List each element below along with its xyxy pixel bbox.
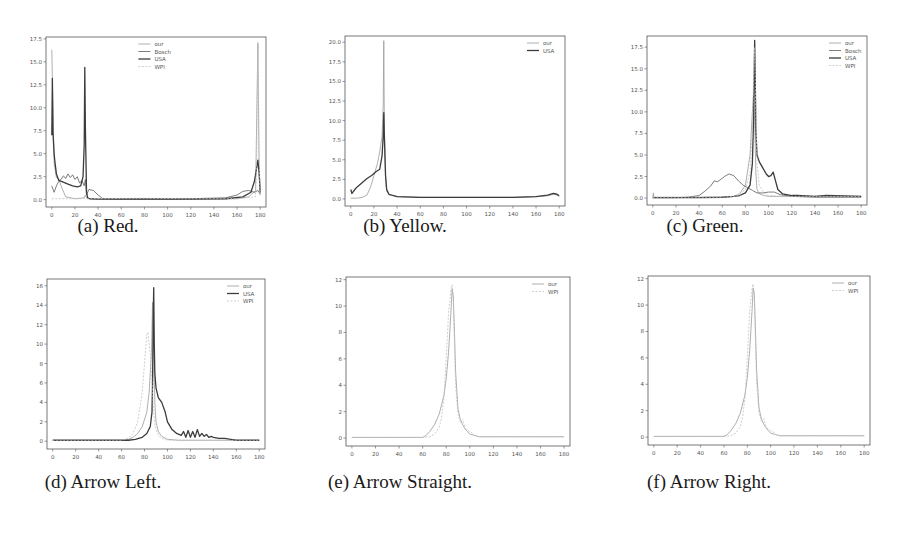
x-tick-label: 140 — [812, 450, 823, 456]
x-tick-label: 20 — [674, 450, 681, 456]
y-tick-label: 4 — [641, 381, 645, 387]
x-tick-label: 160 — [836, 450, 847, 456]
x-tick-label: 80 — [744, 450, 751, 456]
legend: ourWPI — [832, 280, 859, 294]
caption-f: (f) Arrow Right. — [647, 471, 771, 493]
caption-c: (c) Green. — [666, 215, 743, 237]
x-tick-label: 0 — [652, 450, 656, 456]
x-tick-label: 180 — [859, 450, 870, 456]
y-tick-label: 10 — [637, 302, 644, 308]
line-chart-arrow-right: 020406080100120140160180024681012ourWPI — [0, 0, 904, 533]
x-tick-label: 100 — [765, 450, 776, 456]
series-line-wpi — [654, 284, 864, 437]
caption-d: (d) Arrow Left. — [45, 471, 162, 493]
x-tick-label: 40 — [697, 450, 704, 456]
legend-label-wpi: WPI — [848, 288, 859, 294]
legend-label-our: our — [848, 280, 858, 286]
y-tick-label: 2 — [641, 408, 645, 414]
caption-b: (b) Yellow. — [363, 215, 447, 237]
caption-e: (e) Arrow Straight. — [328, 471, 472, 493]
y-tick-label: 8 — [641, 328, 645, 334]
y-tick-label: 12 — [637, 276, 644, 282]
x-tick-label: 60 — [720, 450, 727, 456]
x-tick-label: 120 — [789, 450, 800, 456]
y-tick-label: 6 — [641, 355, 645, 361]
axes-frame — [648, 276, 870, 445]
y-tick-label: 0 — [641, 434, 645, 440]
caption-a: (a) Red. — [77, 215, 138, 237]
